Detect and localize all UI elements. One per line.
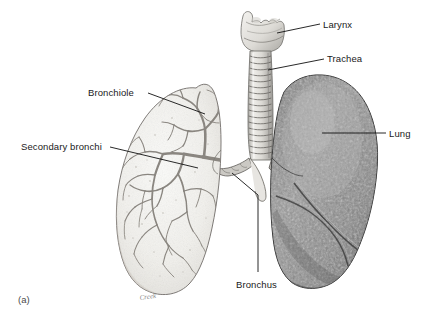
trachea-structure bbox=[248, 51, 273, 160]
right-lung-highlight-core bbox=[290, 90, 334, 154]
label-bronchus: Bronchus bbox=[236, 279, 277, 290]
respiratory-diagram-figure: Larynx Trachea Lung Bronchiole Secondary… bbox=[0, 0, 433, 324]
label-larynx: Larynx bbox=[323, 19, 352, 30]
figure-letter: (a) bbox=[18, 294, 30, 305]
larynx-shadow-right bbox=[269, 18, 279, 24]
larynx-shadow-left bbox=[251, 17, 261, 23]
label-secondary-bronchi: Secondary bronchi bbox=[21, 141, 102, 152]
label-bronchiole: Bronchiole bbox=[88, 87, 134, 98]
anatomy-illustration: Larynx Trachea Lung Bronchiole Secondary… bbox=[0, 0, 433, 324]
label-trachea: Trachea bbox=[327, 53, 363, 64]
label-lung: Lung bbox=[389, 128, 411, 139]
